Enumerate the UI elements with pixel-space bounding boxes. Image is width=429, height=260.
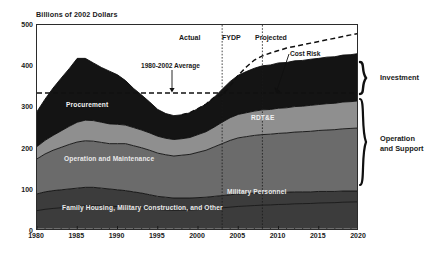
y-axis-tick-labels: 500 400 300 200 100 0 bbox=[0, 24, 33, 230]
chart-figure: Billions of 2002 Dollars 500 400 300 200… bbox=[0, 0, 429, 260]
category-braces bbox=[358, 24, 376, 230]
x-tick-2020: 2020 bbox=[350, 232, 366, 239]
y-tick-300: 300 bbox=[21, 103, 33, 110]
brace-label-operation-support: Operation and Support bbox=[380, 134, 424, 153]
x-tick-1980: 1980 bbox=[28, 232, 44, 239]
annotation-average-label: 1980-2002 Average bbox=[141, 62, 200, 69]
brace-label-investment: Investment bbox=[380, 73, 419, 83]
x-tick-2005: 2005 bbox=[229, 232, 245, 239]
x-tick-1995: 1995 bbox=[149, 232, 165, 239]
x-tick-2010: 2010 bbox=[270, 232, 286, 239]
x-axis-tick-labels: 1980 1985 1990 1995 2000 2005 2010 2015 … bbox=[36, 232, 358, 248]
y-tick-500: 500 bbox=[21, 21, 33, 28]
x-tick-2015: 2015 bbox=[310, 232, 326, 239]
x-tick-1990: 1990 bbox=[109, 232, 125, 239]
band-label-rdte: RDT&E bbox=[251, 114, 274, 121]
phase-label-fydp: FYDP bbox=[222, 34, 241, 41]
plot-area: Actual FYDP Projected 1980-2002 Average … bbox=[36, 24, 358, 230]
x-tick-1985: 1985 bbox=[68, 232, 84, 239]
y-tick-100: 100 bbox=[21, 185, 33, 192]
band-label-military-personnel: Military Personnel bbox=[227, 188, 287, 195]
band-label-family-housing: Family Housing, Military Construction, a… bbox=[62, 204, 223, 211]
phase-label-actual: Actual bbox=[179, 34, 200, 41]
y-tick-400: 400 bbox=[21, 62, 33, 69]
band-label-operation-maintenance: Operation and Maintenance bbox=[64, 155, 154, 162]
band-label-procurement: Procurement bbox=[66, 101, 108, 108]
y-axis-title: Billions of 2002 Dollars bbox=[36, 10, 118, 19]
arrowhead-average bbox=[169, 88, 174, 93]
x-tick-2000: 2000 bbox=[189, 232, 205, 239]
annotation-cost-risk-label: Cost Risk bbox=[290, 50, 320, 57]
y-tick-200: 200 bbox=[21, 144, 33, 151]
phase-label-projected: Projected bbox=[255, 34, 287, 41]
